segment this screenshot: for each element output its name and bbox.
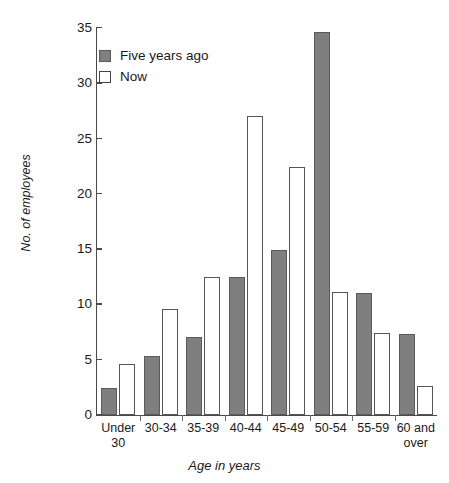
x-axis-separator	[395, 415, 396, 421]
x-axis-category-label: 40-44	[225, 421, 268, 436]
x-axis-category-line: 30-34	[140, 421, 183, 436]
bar-chart: No. of employees 35302520151050 Under303…	[0, 0, 449, 483]
y-axis-tick: 0	[50, 408, 102, 422]
bar-five-years-ago	[144, 356, 160, 415]
y-axis-tick: 15	[50, 242, 102, 256]
y-axis-tick: 25	[50, 132, 102, 146]
x-axis-separator	[352, 415, 353, 421]
x-axis-category-line: 30	[97, 436, 140, 451]
bar-five-years-ago	[314, 32, 330, 415]
x-axis-separator	[310, 415, 311, 421]
bar-group	[395, 28, 438, 415]
y-axis-tick-label: 35	[77, 21, 92, 35]
bar-five-years-ago	[229, 277, 245, 415]
x-axis-category-line: 60 and	[395, 421, 438, 436]
bar-five-years-ago	[271, 250, 287, 415]
x-axis-category-label: 60 andover	[395, 421, 438, 451]
x-axis-category-label: 55-59	[352, 421, 395, 436]
y-axis-title: No. of employees	[19, 143, 33, 263]
y-axis-tick-label: 15	[77, 242, 92, 256]
x-axis-category-label: Under30	[97, 421, 140, 451]
bar-group	[267, 28, 310, 415]
chart-legend: Five years agoNow	[99, 45, 209, 87]
x-axis-separator	[225, 415, 226, 421]
x-axis-category-line: 45-49	[267, 421, 310, 436]
y-axis-tick-label: 0	[84, 408, 92, 422]
x-axis-category-label: 30-34	[140, 421, 183, 436]
y-axis-tick: 5	[50, 353, 102, 367]
x-axis-separator	[182, 415, 183, 421]
x-axis-category-line: 55-59	[352, 421, 395, 436]
y-axis-tick-label: 25	[77, 132, 92, 146]
y-axis-tick-label: 5	[84, 353, 92, 367]
bar-now	[332, 292, 348, 415]
x-axis-category-label: 45-49	[267, 421, 310, 436]
y-axis-tick: 20	[50, 187, 102, 201]
y-axis-tick: 30	[50, 76, 102, 90]
bar-now	[247, 116, 263, 415]
x-axis-category-line: Under	[97, 421, 140, 436]
legend-item-label: Now	[120, 69, 147, 84]
x-axis-separator	[140, 415, 141, 421]
legend-swatch-icon	[99, 71, 111, 83]
x-axis-category-line: 50-54	[310, 421, 353, 436]
bar-five-years-ago	[186, 337, 202, 416]
bar-now	[204, 277, 220, 415]
bar-now	[119, 364, 135, 415]
bar-now	[374, 333, 390, 415]
legend-swatch-icon	[99, 50, 111, 62]
bar-five-years-ago	[356, 293, 372, 415]
bar-now	[162, 309, 178, 415]
bar-now	[289, 167, 305, 415]
bar-group	[310, 28, 353, 415]
y-axis-tick: 35	[50, 21, 102, 35]
y-axis-tick-label: 30	[77, 76, 92, 90]
y-axis-tick: 10	[50, 297, 102, 311]
bar-group	[352, 28, 395, 415]
x-axis-category-line: 40-44	[225, 421, 268, 436]
bar-five-years-ago	[399, 334, 415, 415]
x-axis-category-line: over	[395, 436, 438, 451]
x-axis-separator	[267, 415, 268, 421]
x-axis-category-label: 35-39	[182, 421, 225, 436]
x-axis-category-label: 50-54	[310, 421, 353, 436]
y-axis-tick-label: 10	[77, 297, 92, 311]
x-axis-category-line: 35-39	[182, 421, 225, 436]
legend-item-label: Five years ago	[120, 48, 209, 63]
bar-group	[225, 28, 268, 415]
x-axis-title: Age in years	[0, 458, 449, 473]
legend-item: Now	[99, 66, 209, 87]
bar-now	[417, 386, 433, 415]
bar-five-years-ago	[101, 388, 117, 415]
y-axis-tick-label: 20	[77, 187, 92, 201]
legend-item: Five years ago	[99, 45, 209, 66]
